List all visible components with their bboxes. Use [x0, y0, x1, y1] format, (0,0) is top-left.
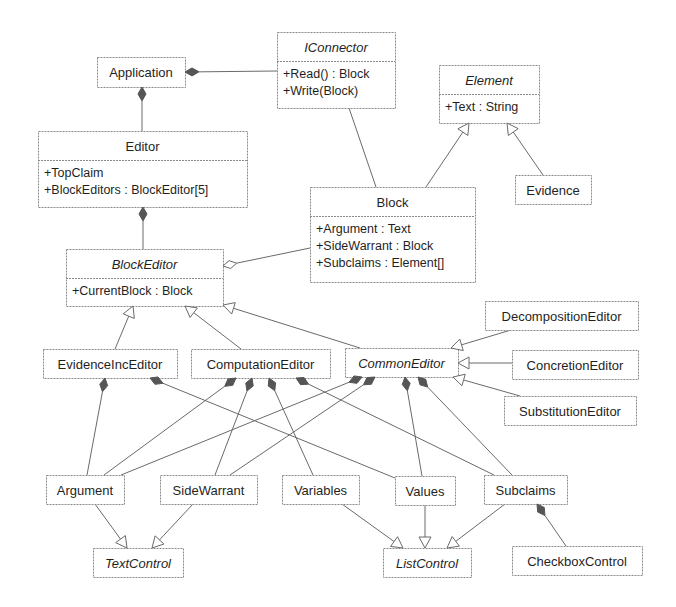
filled-diamond-icon [100, 378, 108, 392]
class-application[interactable]: Application [98, 58, 186, 88]
class-values[interactable]: Values [396, 477, 456, 506]
class-name: DecompositionEditor [502, 309, 623, 324]
class-decomposition-editor[interactable]: DecompositionEditor [486, 302, 639, 331]
generalization-line [456, 504, 505, 541]
class-name: CommonEditor [358, 356, 445, 371]
inheritance-arrow-icon [391, 537, 403, 548]
class-checkbox-control[interactable]: CheckboxControl [513, 547, 643, 576]
generalization-line [462, 330, 511, 345]
generalization-line [233, 308, 360, 348]
class-iconnector[interactable]: IConnector+Read() : Block+Write(Block) [277, 33, 396, 109]
inheritance-arrow-icon [123, 306, 134, 318]
class-attribute: +Text : String [445, 100, 518, 114]
class-name: SubstitutionEditor [519, 404, 622, 419]
uml-class-diagram: ApplicationIConnector+Read() : Block+Wri… [0, 0, 676, 607]
composition-line [199, 71, 277, 72]
class-name: ComputationEditor [207, 357, 315, 372]
class-editor[interactable]: Editor+TopClaim+BlockEditors : BlockEdit… [38, 132, 248, 208]
class-common-editor[interactable]: CommonEditor [346, 349, 459, 378]
class-name: Editor [126, 139, 161, 154]
composition-line [87, 392, 102, 475]
composition-line [215, 391, 247, 475]
composition-line [230, 385, 363, 475]
filled-diamond-icon [296, 377, 309, 384]
class-attribute: +Read() : Block [283, 67, 370, 81]
class-name: ListControl [396, 556, 459, 571]
class-name: Evidence [526, 183, 579, 198]
class-attribute: +Subclaims : Element[] [316, 256, 444, 270]
composition-line [121, 382, 349, 475]
generalization-line [426, 132, 463, 187]
composition-line [428, 387, 512, 475]
filled-diamond-icon [363, 377, 375, 385]
filled-diamond-icon [418, 377, 428, 387]
composition-line [104, 386, 225, 475]
class-name: IConnector [304, 40, 368, 55]
aggregation-line [237, 248, 310, 263]
filled-diamond-icon [225, 378, 236, 386]
filled-diamond-icon [139, 207, 147, 221]
class-attribute: +BlockEditors : BlockEditor[5] [44, 183, 208, 197]
class-concretion-editor[interactable]: ConcretionEditor [513, 351, 639, 380]
class-name: TextControl [105, 556, 172, 571]
class-name: BlockEditor [112, 257, 178, 272]
association-line [349, 108, 376, 187]
class-name: Block [377, 195, 409, 210]
inheritance-arrow-icon [451, 339, 463, 350]
composition-line [545, 516, 566, 546]
class-name: Subclaims [496, 483, 556, 498]
composition-line [309, 384, 494, 475]
generalization-line [95, 504, 121, 539]
class-side-warrant[interactable]: SideWarrant [161, 476, 258, 505]
class-attribute: +CurrentBlock : Block [72, 284, 193, 298]
class-variables[interactable]: Variables [283, 476, 360, 505]
inheritance-arrow-icon [458, 357, 469, 369]
class-block[interactable]: Block+Argument : Text+SideWarrant : Bloc… [310, 188, 476, 283]
generalization-line [194, 313, 241, 349]
inheritance-arrow-icon [507, 123, 518, 135]
inheritance-arrow-icon [447, 537, 459, 548]
inheritance-arrow-icon [458, 123, 469, 135]
filled-diamond-icon [537, 504, 545, 516]
class-name: Element [465, 73, 514, 88]
filled-diamond-icon [268, 378, 275, 391]
class-name: CheckboxControl [527, 554, 627, 569]
hollow-diamond-icon [223, 261, 237, 269]
filled-diamond-icon [402, 377, 410, 391]
generalization-line [159, 504, 193, 540]
class-evidence-inc-editor[interactable]: EvidenceIncEditor [44, 350, 178, 379]
class-attribute: +SideWarrant : Block [316, 239, 434, 253]
classes-layer: ApplicationIConnector+Read() : Block+Wri… [38, 33, 643, 578]
class-substitution-editor[interactable]: SubstitutionEditor [505, 397, 637, 426]
class-name: Application [109, 65, 173, 80]
composition-line [163, 383, 395, 478]
class-name: Values [406, 484, 445, 499]
class-computation-editor[interactable]: ComputationEditor [192, 350, 331, 379]
class-name: ConcretionEditor [527, 358, 624, 373]
class-attribute: +TopClaim [44, 166, 103, 180]
class-name: EvidenceIncEditor [58, 357, 163, 372]
class-attribute: +Argument : Text [316, 222, 411, 236]
inheritance-arrow-icon [223, 303, 235, 314]
class-argument[interactable]: Argument [47, 476, 125, 505]
filled-diamond-icon [185, 68, 199, 76]
class-evidence[interactable]: Evidence [516, 176, 592, 205]
class-element[interactable]: Element+Text : String [439, 66, 540, 124]
composition-line [275, 391, 313, 475]
class-name: SideWarrant [173, 483, 245, 498]
inheritance-arrow-icon [116, 536, 127, 548]
filled-diamond-icon [138, 87, 146, 101]
filled-diamond-icon [246, 378, 253, 391]
class-subclaims[interactable]: Subclaims [485, 476, 568, 505]
class-name: Argument [57, 483, 114, 498]
generalization-line [342, 504, 394, 542]
inheritance-arrow-icon [185, 306, 197, 317]
class-attribute: +Write(Block) [283, 84, 358, 98]
class-block-editor[interactable]: BlockEditor+CurrentBlock : Block [66, 250, 224, 307]
generalization-line [464, 380, 520, 396]
generalization-line [513, 132, 543, 175]
class-list-control[interactable]: ListControl [384, 549, 472, 578]
inheritance-arrow-icon [419, 537, 431, 548]
generalization-line [115, 316, 129, 349]
class-text-control[interactable]: TextControl [94, 549, 184, 578]
